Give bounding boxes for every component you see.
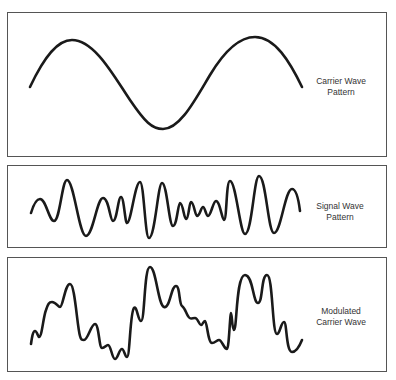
signal-wave-label-line1: Signal Wave [290,201,390,212]
carrier-wave-label-line1: Carrier Wave [291,76,391,87]
carrier-wave-label: Carrier Wave Pattern [291,76,391,98]
modulated-wave-label-line2: Carrier Wave [291,317,391,328]
signal-wave-label-line2: Pattern [290,212,390,223]
modulated-wave-curve [31,267,302,359]
modulated-wave-label-line1: Modulated [291,306,391,317]
modulated-wave-label: Modulated Carrier Wave [291,306,391,328]
signal-wave-curve [31,176,300,238]
signal-wave-label: Signal Wave Pattern [290,201,390,223]
carrier-wave-curve [30,37,302,129]
carrier-wave-label-line2: Pattern [291,87,391,98]
